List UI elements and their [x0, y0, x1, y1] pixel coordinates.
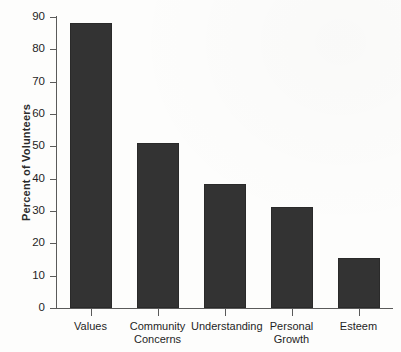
y-tick-mark	[50, 82, 57, 83]
y-tick-label-wrap: 0	[0, 302, 45, 313]
x-axis-category-label: Values	[57, 320, 124, 333]
y-tick-label: 30	[3, 205, 45, 216]
y-tick-label-wrap: 10	[0, 270, 45, 281]
y-tick-label-wrap: 20	[0, 237, 45, 248]
y-tick-label-wrap: 30	[0, 205, 45, 216]
y-tick-mark	[50, 179, 57, 180]
x-tick-mark	[91, 309, 92, 316]
y-tick-label-wrap: 50	[0, 140, 45, 151]
y-tick-label: 70	[3, 76, 45, 87]
bar	[204, 184, 246, 308]
y-tick-label-wrap: 60	[0, 108, 45, 119]
y-tick-mark	[50, 17, 57, 18]
y-tick-label-wrap: 70	[0, 76, 45, 87]
x-axis-category-label: Community Concerns	[124, 320, 191, 345]
y-tick-label: 80	[3, 43, 45, 54]
y-tick-label: 20	[3, 237, 45, 248]
y-axis-line	[56, 16, 57, 309]
y-tick-mark	[50, 211, 57, 212]
y-tick-label-wrap: 40	[0, 173, 45, 184]
y-tick-label-wrap: 90	[0, 11, 45, 22]
y-axis-title: Percent of Volunteers	[18, 17, 34, 308]
x-axis-category-label: Esteem	[325, 320, 392, 333]
y-tick-label: 50	[3, 140, 45, 151]
bar	[137, 143, 179, 308]
x-tick-mark	[359, 309, 360, 316]
x-tick-mark	[158, 309, 159, 316]
y-tick-mark	[50, 243, 57, 244]
y-tick-label: 90	[3, 11, 45, 22]
y-tick-label: 10	[3, 270, 45, 281]
y-tick-mark	[50, 49, 57, 50]
bar-chart: Percent of Volunteers 010203040506070809…	[0, 0, 401, 352]
y-tick-label-wrap: 80	[0, 43, 45, 54]
x-axis-category-label: Personal Growth	[258, 320, 325, 345]
bar	[70, 23, 112, 308]
bar	[271, 207, 313, 308]
y-tick-mark	[50, 308, 57, 309]
x-axis-category-label: Understanding	[191, 320, 258, 333]
y-tick-label: 60	[3, 108, 45, 119]
y-tick-mark	[50, 114, 57, 115]
x-tick-mark	[225, 309, 226, 316]
y-tick-mark	[50, 146, 57, 147]
y-tick-label: 40	[3, 173, 45, 184]
y-tick-mark	[50, 276, 57, 277]
x-tick-mark	[292, 309, 293, 316]
bar	[338, 258, 380, 308]
y-tick-label: 0	[3, 302, 45, 313]
